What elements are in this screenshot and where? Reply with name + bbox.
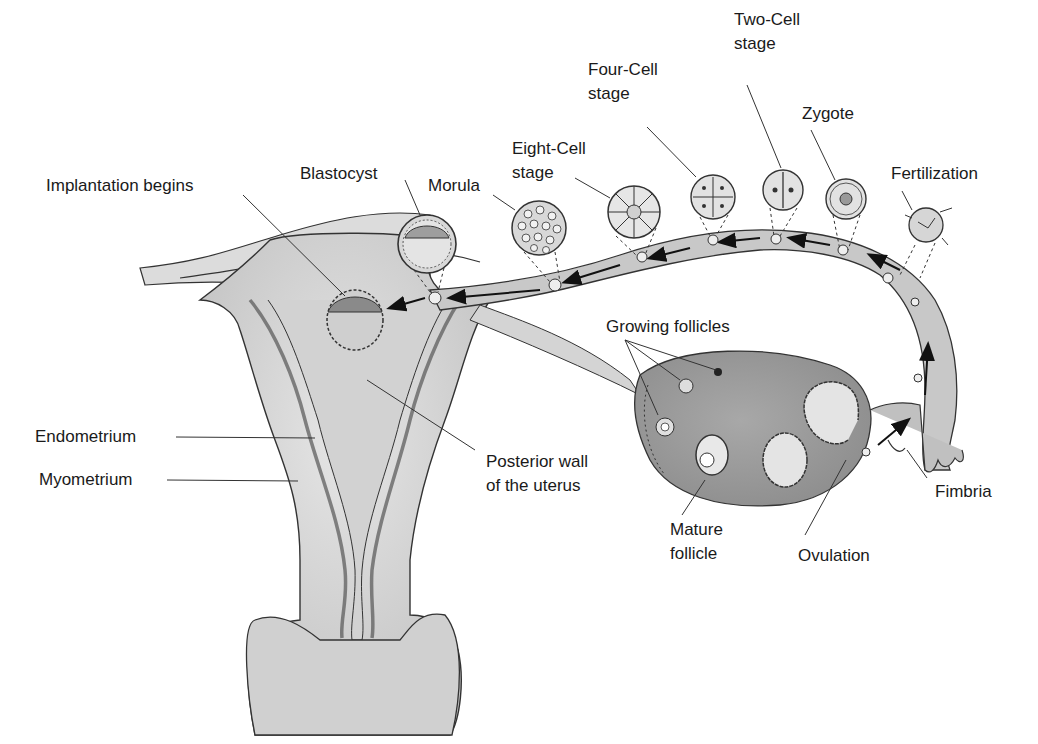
- label-zygote: Zygote: [802, 102, 854, 126]
- corpus-luteum: [763, 433, 807, 487]
- implanting-blastocyst: [327, 290, 383, 350]
- growing-follicle-2: [679, 379, 693, 393]
- label-endometrium: Endometrium: [35, 425, 136, 449]
- diagram-canvas: Two-Cell stage Four-Cell stage Zygote Ei…: [0, 0, 1038, 744]
- label-morula: Morula: [428, 174, 480, 198]
- label-myometrium: Myometrium: [39, 468, 133, 492]
- label-blastocyst: Blastocyst: [300, 162, 377, 186]
- anatomy-illustration: [0, 0, 1038, 744]
- label-implantation-begins: Implantation begins: [46, 174, 193, 198]
- label-growing-follicles: Growing follicles: [606, 315, 730, 339]
- two-cell-illustration: [763, 170, 803, 236]
- label-fimbria: Fimbria: [935, 480, 992, 504]
- morula-illustration: [512, 201, 566, 282]
- growing-follicle-1: [714, 368, 722, 376]
- label-posterior-wall: Posterior wall of the uterus: [486, 450, 588, 498]
- label-ovulation: Ovulation: [798, 544, 870, 568]
- label-mature-follicle: Mature follicle: [670, 518, 723, 566]
- stage-bubbles: [398, 170, 952, 292]
- label-two-cell-stage: Two-Cell stage: [734, 8, 800, 56]
- fertilization-illustration: [900, 208, 952, 278]
- label-four-cell-stage: Four-Cell stage: [588, 58, 658, 106]
- ovary: [635, 351, 871, 506]
- label-eight-cell-stage: Eight-Cell stage: [512, 137, 586, 185]
- label-fertilization: Fertilization: [891, 162, 978, 186]
- four-cell-illustration: [691, 175, 735, 236]
